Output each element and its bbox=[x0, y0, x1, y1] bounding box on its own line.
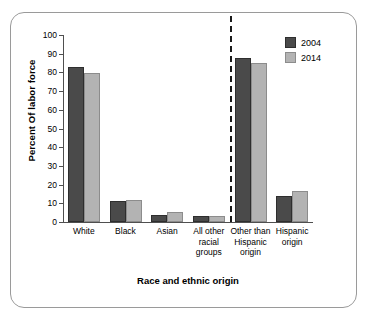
y-axis-tick-mark bbox=[59, 222, 63, 223]
y-axis-tick-mark bbox=[59, 166, 63, 167]
y-axis-tick-mark bbox=[59, 185, 63, 186]
bar-group bbox=[110, 35, 142, 222]
bar bbox=[68, 67, 84, 222]
x-axis-title: Race and ethnic origin bbox=[63, 275, 313, 286]
bar-group bbox=[68, 35, 100, 222]
y-axis-tick-label: 30 bbox=[48, 161, 57, 171]
y-axis-tick-label: 90 bbox=[48, 49, 57, 59]
y-axis-tick-mark bbox=[59, 110, 63, 111]
chart-legend: 2004 2014 bbox=[285, 37, 321, 67]
bar bbox=[84, 73, 100, 222]
x-axis-tick-label: Black bbox=[105, 226, 147, 237]
y-axis-tick-label: 100 bbox=[43, 30, 57, 40]
x-axis-tick-label: Other thanHispanicorigin bbox=[230, 226, 272, 258]
y-axis-tick-label: 10 bbox=[48, 198, 57, 208]
legend-item-2004: 2004 bbox=[285, 37, 321, 48]
bar-group bbox=[151, 35, 183, 222]
x-axis-line bbox=[63, 222, 313, 223]
y-axis-tick-label: 50 bbox=[48, 124, 57, 134]
y-axis-tick-label: 20 bbox=[48, 180, 57, 190]
y-axis-tick-mark bbox=[59, 129, 63, 130]
legend-label: 2014 bbox=[301, 53, 321, 63]
y-axis-tick-label: 60 bbox=[48, 105, 57, 115]
bar-group bbox=[235, 35, 267, 222]
y-axis-tick-label: 40 bbox=[48, 142, 57, 152]
legend-label: 2004 bbox=[301, 38, 321, 48]
bar bbox=[193, 216, 209, 222]
y-axis-title: Percent Of labor force bbox=[26, 31, 37, 191]
category-divider-line bbox=[230, 16, 232, 222]
y-axis-tick-mark bbox=[59, 147, 63, 148]
chart-canvas: Percent Of labor force Race and ethnic o… bbox=[11, 13, 358, 309]
y-axis-tick-mark bbox=[59, 72, 63, 73]
bar bbox=[110, 201, 126, 222]
bar bbox=[167, 212, 183, 222]
x-axis-tick-label: All otherracialgroups bbox=[188, 226, 230, 258]
legend-item-2014: 2014 bbox=[285, 52, 321, 63]
bar bbox=[235, 58, 251, 222]
y-axis-tick-mark bbox=[59, 54, 63, 55]
dark-gray-swatch-icon bbox=[285, 37, 296, 48]
light-gray-swatch-icon bbox=[285, 52, 296, 63]
bar bbox=[209, 216, 225, 222]
y-axis-tick-mark bbox=[59, 35, 63, 36]
bar-group bbox=[193, 35, 225, 222]
bar bbox=[292, 191, 308, 222]
y-axis-tick-mark bbox=[59, 203, 63, 204]
y-axis-line bbox=[63, 35, 64, 222]
y-axis-tick-label: 0 bbox=[52, 217, 57, 227]
plot-area: 0102030405060708090100 WhiteBlackAsianAl… bbox=[63, 35, 313, 222]
y-axis-tick-label: 80 bbox=[48, 67, 57, 77]
y-axis-tick-mark bbox=[59, 91, 63, 92]
bar bbox=[151, 215, 167, 222]
x-axis-tick-label: White bbox=[63, 226, 105, 237]
bar bbox=[251, 63, 267, 222]
y-axis-tick-label: 70 bbox=[48, 86, 57, 96]
bar bbox=[126, 200, 142, 222]
bar bbox=[276, 196, 292, 222]
x-axis-tick-label: Hispanicorigin bbox=[271, 226, 313, 247]
x-axis-tick-label: Asian bbox=[146, 226, 188, 237]
chart-figure-frame: Percent Of labor force Race and ethnic o… bbox=[10, 12, 357, 308]
